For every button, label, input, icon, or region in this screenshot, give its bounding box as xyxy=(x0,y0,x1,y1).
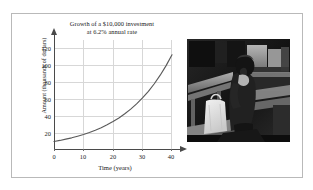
y-tick-label: 20 xyxy=(35,130,51,137)
x-tick-label: 10 xyxy=(75,153,91,160)
y-tick-label: 100 xyxy=(35,62,51,69)
x-axis-label: Time (years) xyxy=(50,164,180,171)
x-tick-labels: 0 10 20 30 40 xyxy=(54,153,172,163)
x-tick-mark xyxy=(83,149,84,151)
x-tick-label: 0 xyxy=(46,153,62,160)
y-tick-label: 40 xyxy=(35,113,51,120)
x-tick-mark xyxy=(113,149,114,151)
y-tick-label: 60 xyxy=(35,96,51,103)
plot-area xyxy=(54,40,172,150)
y-axis-arrow-icon xyxy=(51,28,57,35)
x-tick-label: 20 xyxy=(105,153,121,160)
x-axis-line xyxy=(54,149,182,150)
x-tick-mark xyxy=(54,149,55,151)
growth-curve xyxy=(54,40,172,150)
chart-title: Growth of a $10,000 investment at 6.2% a… xyxy=(42,20,182,36)
investment-growth-chart: Growth of a $10,000 investment at 6.2% a… xyxy=(20,16,200,176)
chart-title-line-2: at 6.2% annual rate xyxy=(42,28,182,36)
x-tick-mark xyxy=(142,149,143,151)
y-tick-labels: 20 40 60 80 100 120 xyxy=(34,40,51,150)
y-tick-label: 80 xyxy=(35,79,51,86)
photo-graphic xyxy=(187,39,290,142)
y-axis-line xyxy=(54,34,55,150)
chart-title-line-1: Growth of a $10,000 investment xyxy=(42,20,182,28)
x-tick-label: 30 xyxy=(134,153,150,160)
y-tick-label: 120 xyxy=(35,45,51,52)
person-seated-on-bench-photo xyxy=(187,39,290,142)
x-tick-label: 40 xyxy=(163,153,179,160)
x-axis-arrow-icon xyxy=(180,146,187,152)
x-tick-mark xyxy=(171,149,172,151)
figure-frame: Growth of a $10,000 investment at 6.2% a… xyxy=(11,13,303,178)
